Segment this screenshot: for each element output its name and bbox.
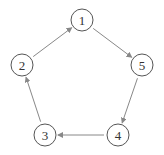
node-label: 3 (42, 128, 49, 143)
edge-5-to-4 (122, 78, 137, 122)
node-1: 1 (71, 9, 93, 31)
node-5: 5 (131, 54, 153, 76)
node-4: 4 (107, 124, 129, 146)
edge-3-to-2 (26, 77, 41, 121)
node-2: 2 (11, 54, 33, 76)
node-label: 4 (115, 128, 122, 143)
cycle-diagram: 12345 (0, 0, 164, 155)
node-label: 2 (19, 58, 26, 73)
node-label: 5 (139, 58, 146, 73)
edge-2-to-1 (33, 28, 71, 57)
node-3: 3 (34, 124, 56, 146)
node-label: 1 (79, 13, 86, 28)
edge-1-to-5 (93, 28, 131, 57)
